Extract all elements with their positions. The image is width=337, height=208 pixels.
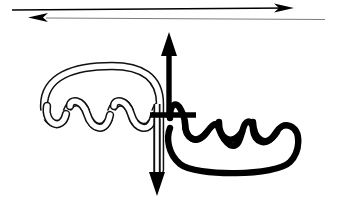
up-arrowhead-icon <box>161 32 177 56</box>
lower-arrow-shaft <box>46 18 325 20</box>
lower-left-arrow <box>28 13 325 22</box>
down-arrowhead-icon <box>149 172 165 196</box>
upper-right-arrow <box>12 4 294 13</box>
knot-diagram-canvas <box>0 0 337 208</box>
lower-arrowhead-left-icon <box>28 13 48 22</box>
top-reference-arrows <box>12 4 325 23</box>
upper-arrow-shaft <box>12 8 288 10</box>
knot-diagram-figure <box>0 0 337 208</box>
